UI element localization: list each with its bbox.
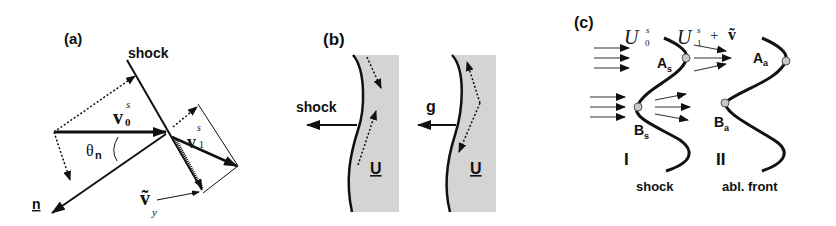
right-velocity-label: U [470,160,482,177]
svg-text:A: A [753,50,763,66]
svg-text:ṽ: ṽ [728,26,736,43]
v0-label: v s 0 [113,98,131,128]
U1-plus-v-label: U s 1 + ṽ [677,25,736,48]
svg-text:θ: θ [86,142,94,159]
svg-text:s: s [644,131,649,141]
theta-n-label: θ n [86,142,102,161]
left-arrow-label: shock [296,99,337,115]
panel-b: (b) shock U g U [296,30,496,212]
svg-text:0: 0 [125,116,131,128]
point-Bs [634,103,642,111]
svg-text:n: n [95,149,102,161]
svg-text:0: 0 [645,38,650,48]
figure-canvas: (a) shock v s 0 θ n [0,0,836,226]
left-velocity-label: U [370,160,382,177]
svg-text:s: s [197,122,201,133]
panel-c-label: (c) [574,14,594,31]
svg-text:v: v [113,106,123,128]
parallelogram-edge [203,166,238,193]
svg-text:ṽ: ṽ [140,187,150,209]
panel-a-label: (a) [64,30,82,47]
svg-text:s: s [667,64,672,74]
panel-c: (c) U s 0 U s 1 + ṽ [574,14,790,194]
svg-text:s: s [646,25,650,35]
svg-text:s: s [697,25,701,35]
region-I-label: I [624,150,629,169]
v1-label: v s 1 [187,122,204,152]
svg-text:1: 1 [199,139,204,150]
U0-label: U s 0 [624,25,650,48]
Bs-label: B s [634,122,649,141]
svg-text:a: a [724,123,730,133]
angle-arc [114,137,118,161]
outgoing-flow-arrow [694,45,726,51]
shock-label: shock [128,45,169,61]
point-Ba [721,99,729,107]
vy-label: ṽ y [140,187,157,218]
vy-pointer [157,192,199,200]
right-fluid-region [446,55,496,212]
ablation-front-label: abl. front [722,179,778,194]
point-As [682,54,690,62]
svg-text:B: B [634,122,644,138]
panel-a: (a) shock v s 0 θ n [32,30,238,218]
svg-text:v: v [187,132,196,152]
v0-normal-dotted [54,132,70,180]
outgoing-flow-arrow [655,94,686,100]
outgoing-flow-arrow [694,64,726,71]
svg-text:y: y [151,206,157,218]
svg-text:U: U [624,26,640,48]
svg-text:+: + [710,27,718,43]
As-label: A s [657,55,672,74]
svg-text:s: s [126,98,130,110]
point-Aa [782,57,790,65]
v1-normal-dotted [173,107,197,127]
svg-text:B: B [714,114,724,130]
outgoing-flow-arrow [655,114,688,120]
panel-b-label: (b) [323,30,345,49]
Aa-label: A a [753,50,769,68]
Ba-label: B a [714,114,730,133]
n-label: n [32,196,41,212]
shock-line [127,60,202,190]
svg-text:A: A [657,55,667,71]
region-II-label: II [716,150,725,169]
shock-front-label: shock [636,179,674,194]
svg-text:a: a [763,58,769,68]
right-arrow-label: g [426,98,436,115]
